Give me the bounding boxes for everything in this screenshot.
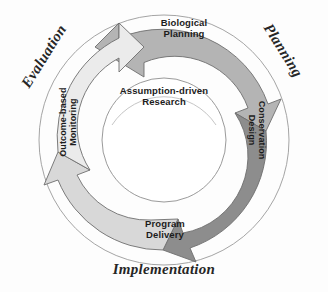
step-label-program-delivery: Program Delivery <box>125 219 205 240</box>
step-label-line2: Delivery <box>125 230 205 241</box>
center-label-line2: Research <box>100 97 228 108</box>
step-label-biological-planning: Biological Planning <box>144 18 224 39</box>
step-label-outcome-based-monitoring: Outcome-based Monitoring <box>58 68 78 176</box>
step-label-conservation-design: Conservation Design <box>247 80 267 180</box>
phase-label-implementation: Implementation <box>84 261 244 278</box>
step-label-line1: Outcome-based <box>58 68 68 176</box>
step-label-line2: Planning <box>144 29 224 40</box>
center-label-assumption-driven-research: Assumption-driven Research <box>100 86 228 107</box>
adaptive-management-cycle-diagram: Biological Planning Conservation Design … <box>0 0 328 292</box>
step-label-line2: Design <box>247 80 257 180</box>
step-label-line2: Monitoring <box>68 68 78 176</box>
step-label-line1: Conservation <box>257 80 267 180</box>
